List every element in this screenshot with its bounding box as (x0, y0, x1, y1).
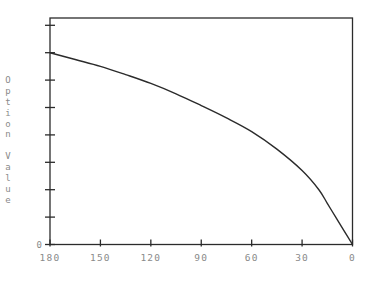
plot-frame (50, 18, 353, 245)
y-tick-label: 0 (37, 240, 42, 250)
x-tick-label: 120 (140, 252, 161, 263)
option-value-chart: 0 1801501209060300 (0, 0, 375, 284)
x-tick-label: 180 (40, 252, 61, 263)
x-tick-label: 30 (295, 252, 309, 263)
plot-border (50, 18, 353, 245)
x-tick-label: 60 (245, 252, 259, 263)
y-axis-ticks: 0 (37, 25, 55, 249)
x-tick-label: 0 (349, 252, 356, 263)
x-axis-ticks: 1801501209060300 (40, 240, 356, 263)
x-tick-label: 150 (90, 252, 111, 263)
option-value-series (50, 53, 353, 245)
x-tick-label: 90 (194, 252, 208, 263)
option-value-line (50, 53, 353, 245)
